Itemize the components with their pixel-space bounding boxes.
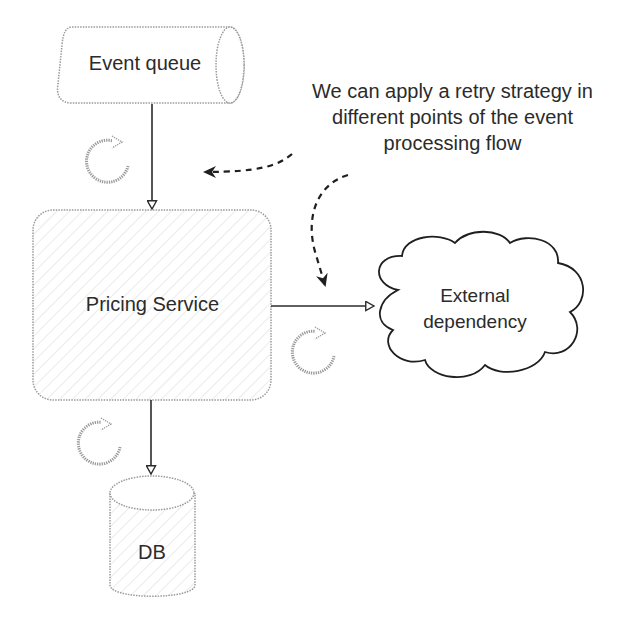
retry-icon <box>292 327 334 373</box>
annotation-arrow-to-queue-edge <box>205 154 292 172</box>
retry-icon <box>78 418 120 464</box>
external-dependency-label-line1: External <box>405 285 545 307</box>
db-label: DB <box>112 541 192 564</box>
annotation-arrow-to-external-edge <box>312 175 348 285</box>
retry-strategy-annotation: We can apply a retry strategy in differe… <box>290 78 615 156</box>
external-dependency-label-line2: dependency <box>405 311 545 333</box>
event-queue-label: Event queue <box>70 52 220 75</box>
db-node <box>110 476 195 596</box>
retry-icon <box>87 136 128 182</box>
pricing-service-label: Pricing Service <box>40 293 265 316</box>
